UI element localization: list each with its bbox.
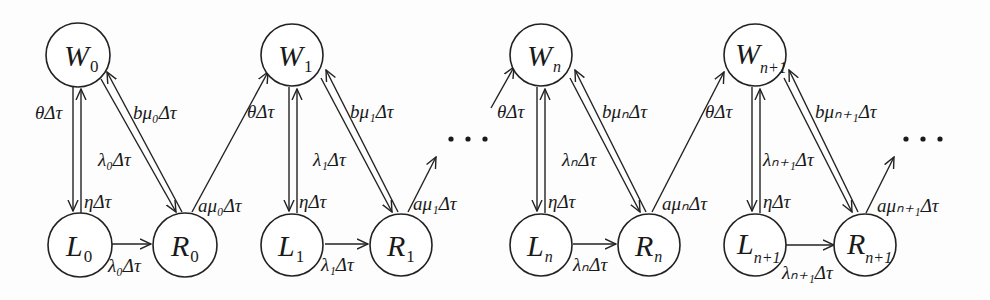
edge-r0-to-w0 [107,72,182,212]
node-w0: W0 [46,23,110,87]
label-w0-to-r0: λ₀Δτ [97,149,132,170]
label-ln-to-rn: λₙΔτ [572,254,608,275]
edge-w1-to-r1 [321,78,392,212]
label-ln-to-wn: ηΔτ [548,191,577,212]
edge-wn-to-rn [570,78,640,212]
label-l1-to-w1: ηΔτ [299,191,328,212]
edge-rn-to-wn1 [652,72,724,212]
block-1: W1 L1 R1 θΔτ ηΔτ λ₁Δτ bμ₁Δτ λ₁Δτ aμ₁Δτ [247,24,458,276]
label-incoming-w1: θΔτ [247,101,275,122]
label-rn-to-wn1: aμₙΔτ [662,193,708,214]
label-incoming-wn: θΔτ [497,101,525,122]
node-ln: Ln [510,214,572,276]
node-wn1: Wn+1 [724,24,787,86]
label-r1-out: aμ₁Δτ [413,193,458,214]
label-l0-to-r0: λ₀Δτ [107,255,142,276]
edge-w0-to-r0 [101,79,176,212]
edge-wn1-to-rn1 [784,78,852,212]
label-r0-to-w0: bμ₀Δτ [133,102,178,123]
label-wn-to-rn: λₙΔτ [561,149,597,170]
node-r1: R1 [370,214,432,276]
node-l1: L1 [261,214,323,276]
label-rn1-out: aμₙ₊₁Δτ [877,195,940,216]
block-0: W0 L0 R0 θΔτ ηΔτ λ₀Δτ bμ₀Δτ λ₀Δτ aμ₀Δτ [35,23,268,277]
node-rn1: Rn+1 [834,214,896,276]
edge-rn-to-wn [575,70,646,212]
label-incoming-wn1: θΔτ [705,101,733,122]
label-l1-to-r1: λ₁Δτ [320,254,355,275]
label-wn1-to-rn1: λₙ₊₁Δτ [762,149,815,170]
label-w0-to-l0: θΔτ [35,102,63,123]
node-rn: Rn [618,214,680,276]
label-r0-to-w1: aμ₀Δτ [198,195,243,216]
node-w1: W1 [261,24,323,86]
label-w1-to-r1: λ₁Δτ [312,149,347,170]
label-l0-to-w0: ηΔτ [84,191,113,212]
node-wn: Wn [510,24,572,86]
label-rn1-to-wn1: bμₙ₊₁Δτ [815,101,878,122]
node-r0: R0 [153,213,217,277]
node-ln1: Ln+1 [724,214,786,276]
ellipsis-right [903,136,942,141]
block-n: Wn Ln Rn θΔτ ηΔτ λₙΔτ bμₙΔτ λₙΔτ aμₙΔτ [491,24,724,276]
block-n-plus-1: Wn+1 Ln+1 Rn+1 θΔτ ηΔτ λₙ₊₁Δτ bμₙ₊₁Δτ λₙ… [705,24,940,283]
label-r1-to-w1: bμ₁Δτ [350,101,395,122]
edge-r1-to-w1 [326,70,398,212]
label-rn-to-wn: bμₙΔτ [602,101,648,122]
label-ln1-to-rn1: λₙ₊₁Δτ [781,262,834,283]
edge-r0-to-w1 [192,72,268,212]
edge-rn1-to-wn1 [789,70,858,212]
node-l0: L0 [48,213,112,277]
markov-chain-diagram: W0 L0 R0 θΔτ ηΔτ λ₀Δτ bμ₀Δτ λ₀Δτ aμ₀Δτ W… [0,0,990,300]
ellipsis-middle [448,136,487,141]
label-ln1-to-wn1: ηΔτ [763,191,792,212]
